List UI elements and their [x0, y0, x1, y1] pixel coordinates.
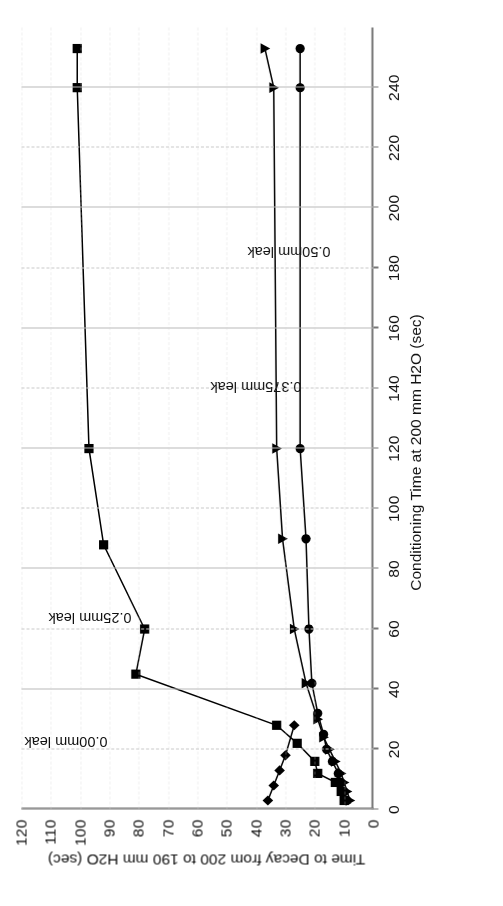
x-tick-label: 60: [386, 621, 404, 639]
x-tick-label: 120: [386, 436, 404, 462]
x-tick-mark: [374, 147, 379, 148]
x-tick-mark: [374, 207, 379, 208]
series-triangle: [261, 44, 356, 807]
plot-area: [22, 28, 374, 810]
x-tick-mark: [374, 688, 379, 689]
y-tick-label: 20: [306, 820, 324, 866]
y-tick-label: 60: [189, 820, 207, 866]
rotated-figure-wrapper: Conditioning Time at 200 mm H2O (sec) Ti…: [0, 0, 503, 906]
x-tick-label: 40: [386, 681, 404, 699]
y-tick-label: 30: [277, 820, 295, 866]
x-tick-mark: [374, 448, 379, 449]
x-tick-mark: [374, 388, 379, 389]
x-tick-label: 20: [386, 741, 404, 759]
y-tick-label: 70: [160, 820, 178, 866]
x-tick-mark: [374, 327, 379, 328]
series-label-0: 0.00mm leak: [25, 735, 108, 751]
x-tick-mark: [374, 748, 379, 749]
y-axis-title: Time to Decay from 200 to 190 mm H2O (se…: [0, 851, 417, 869]
series-square: [73, 44, 349, 805]
y-tick-label: 10: [336, 820, 354, 866]
y-tick-label: 90: [101, 820, 119, 866]
y-tick-label: 110: [42, 820, 60, 866]
y-tick-label: 50: [218, 820, 236, 866]
chart-upright-frame: Conditioning Time at 200 mm H2O (sec) Ti…: [0, 0, 503, 906]
series-label-3: 0.50mm leak: [248, 245, 331, 261]
x-tick-label: 140: [386, 376, 404, 402]
x-tick-label: 200: [386, 195, 404, 221]
y-tick-label: 0: [365, 820, 383, 866]
x-tick-mark: [374, 87, 379, 88]
y-tick-label: 120: [13, 820, 31, 866]
x-tick-label: 0: [386, 806, 404, 815]
x-tick-label: 240: [386, 75, 404, 101]
series-label-2: 0.375mm leak: [211, 380, 302, 396]
series-label-1: 0.25mm leak: [49, 612, 132, 628]
y-tick-label: 80: [130, 820, 148, 866]
x-tick-mark: [374, 628, 379, 629]
x-axis-title: Conditioning Time at 200 mm H2O (sec): [408, 315, 426, 592]
x-tick-label: 180: [386, 255, 404, 281]
y-tick-label: 100: [72, 820, 90, 866]
x-tick-mark: [374, 508, 379, 509]
x-tick-label: 220: [386, 135, 404, 161]
x-tick-label: 100: [386, 496, 404, 522]
y-tick-label: 40: [248, 820, 266, 866]
x-tick-mark: [374, 568, 379, 569]
x-tick-label: 80: [386, 561, 404, 579]
x-tick-mark: [374, 809, 379, 810]
chart-figure: Conditioning Time at 200 mm H2O (sec) Ti…: [0, 0, 503, 906]
x-tick-label: 160: [386, 316, 404, 342]
x-tick-mark: [374, 267, 379, 268]
series-diamond: [263, 721, 300, 806]
